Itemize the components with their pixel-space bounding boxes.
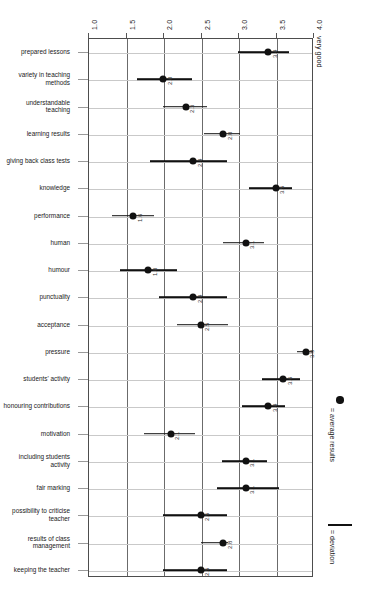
category-label: including studentsactivity (0, 453, 70, 468)
value-label: 3.6 (287, 377, 293, 385)
value-label: 2.4 (197, 295, 203, 303)
value-label: 3.1 (249, 486, 255, 494)
axis-tick-label: 3.5 (279, 20, 286, 30)
category-label-line: acceptance (0, 321, 70, 329)
category-label-line: students' activity (0, 375, 70, 383)
category-label: prepared lessons (0, 48, 70, 56)
category-label-line: understandable (0, 99, 70, 107)
category-tick (78, 488, 88, 489)
chart-legend: = average results = deviation (322, 378, 362, 578)
category-tick (78, 270, 88, 271)
category-tick (78, 570, 88, 571)
category-tick (78, 161, 88, 162)
category-label-line: punctuality (0, 294, 70, 302)
average-marker (197, 512, 204, 519)
average-marker (265, 403, 272, 410)
axis-tick-label: 1.5 (129, 20, 136, 30)
category-tick (78, 352, 88, 353)
value-label: 3.4 (272, 50, 278, 58)
value-label: 2.4 (197, 159, 203, 167)
average-marker (242, 457, 249, 464)
category-label: punctuality (0, 294, 70, 302)
value-label: 2.8 (227, 131, 233, 139)
average-marker (182, 103, 189, 110)
average-marker (272, 185, 279, 192)
average-marker (242, 485, 249, 492)
category-label: possibility to criticiseteacher (0, 508, 70, 523)
gridline-horizontal (89, 544, 312, 545)
chart-page: very good 1.01.52.02.53.03.54.0 prepared… (0, 0, 365, 601)
axis-caption: very good (315, 36, 324, 68)
gridline-horizontal (89, 271, 312, 272)
category-tick (78, 52, 88, 53)
category-label: performance (0, 212, 70, 220)
category-label: variety in teachingmethods (0, 72, 70, 87)
value-label: 3.1 (249, 459, 255, 467)
gridline-horizontal (89, 353, 312, 354)
value-label: 3.4 (272, 404, 278, 412)
axis-tick-label: 4.0 (316, 20, 323, 30)
value-label: 2.3 (189, 104, 195, 112)
average-marker (220, 130, 227, 137)
category-tick (78, 434, 88, 435)
axis-tick-label: 2.0 (166, 20, 173, 30)
category-label-line: prepared lessons (0, 48, 70, 56)
gridline-horizontal (89, 53, 312, 54)
category-label-line: results of class (0, 535, 70, 543)
deviation-bar (238, 51, 289, 53)
gridline-horizontal (89, 135, 312, 136)
axis-tick (276, 33, 277, 38)
category-label: giving back class tests (0, 157, 70, 165)
value-label: 2.5 (204, 322, 210, 330)
gridline-horizontal (89, 462, 312, 463)
gridline-vertical (127, 39, 128, 576)
value-label: 3.9 (309, 350, 315, 358)
category-label: students' activity (0, 375, 70, 383)
value-label: 1.6 (137, 213, 143, 221)
category-label-line: pressure (0, 348, 70, 356)
category-tick (78, 216, 88, 217)
category-label-line: teaching (0, 107, 70, 115)
average-marker (130, 212, 137, 219)
gridline-horizontal (89, 489, 312, 490)
category-label: knowledge (0, 185, 70, 193)
category-tick (78, 406, 88, 407)
legend-deviation-marker (328, 524, 352, 526)
gridline-vertical (239, 39, 240, 576)
category-tick (78, 543, 88, 544)
average-marker (302, 348, 309, 355)
category-label-line: human (0, 239, 70, 247)
value-label: 2.8 (227, 540, 233, 548)
gridline-horizontal (89, 244, 312, 245)
value-label: 2.0 (167, 77, 173, 85)
category-tick (78, 325, 88, 326)
category-label: understandableteaching (0, 99, 70, 114)
category-label-line: learning results (0, 130, 70, 138)
category-label: fair marking (0, 484, 70, 492)
value-label: 3.5 (279, 186, 285, 194)
category-label-line: motivation (0, 430, 70, 438)
value-label: 2.1 (174, 431, 180, 439)
gridline-horizontal (89, 80, 312, 81)
average-marker (197, 321, 204, 328)
gridline-vertical (164, 39, 165, 576)
category-tick (78, 379, 88, 380)
gridline-horizontal (89, 435, 312, 436)
deviation-bar (163, 515, 227, 517)
gridline-horizontal (89, 108, 312, 109)
category-tick (78, 461, 88, 462)
axis-tick-label: 2.5 (204, 20, 211, 30)
category-label-line: fair marking (0, 484, 70, 492)
category-tick (78, 297, 88, 298)
category-tick (78, 134, 88, 135)
axis-tick (126, 33, 127, 38)
average-marker (145, 267, 152, 274)
deviation-bar (249, 188, 292, 190)
category-label: results of classmanagement (0, 535, 70, 550)
axis-tick (238, 33, 239, 38)
axis-tick (313, 33, 314, 38)
legend-deviation-label: = deviation (329, 530, 336, 564)
gridline-vertical (277, 39, 278, 576)
category-label: humour (0, 266, 70, 274)
category-label-line: teacher (0, 515, 70, 523)
